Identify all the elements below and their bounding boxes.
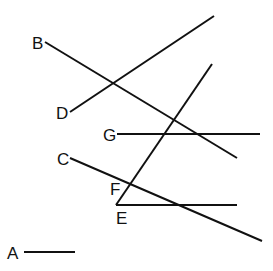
label-B: B	[32, 35, 43, 52]
label-E: E	[116, 210, 127, 227]
segment-D	[70, 16, 214, 112]
line-segments-diagram: B D G C F E A	[0, 0, 273, 271]
label-C: C	[57, 151, 69, 168]
label-D: D	[56, 105, 68, 122]
label-A: A	[7, 245, 18, 262]
segment-B	[45, 42, 237, 158]
label-F: F	[110, 181, 120, 198]
label-G: G	[103, 127, 116, 144]
segment-C	[70, 158, 262, 241]
